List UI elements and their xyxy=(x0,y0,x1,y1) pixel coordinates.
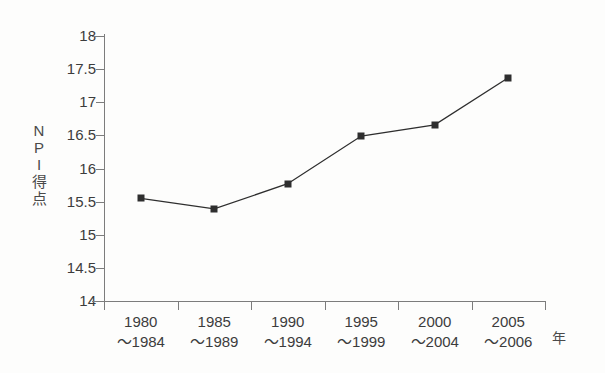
y-axis-tick-mark xyxy=(96,135,104,136)
data-point-marker xyxy=(358,133,365,140)
data-point-marker xyxy=(284,180,291,187)
x-axis-tick-label: 2005～2006 xyxy=(462,312,554,352)
y-axis-tick-label: 17 xyxy=(52,94,96,109)
x-axis-tick-mark xyxy=(104,301,105,310)
y-axis-title-char: P xyxy=(26,139,52,156)
y-axis-tick-label: 14.5 xyxy=(52,260,96,275)
y-axis-tick-mark xyxy=(96,202,104,203)
y-axis-tick-label: 14 xyxy=(52,293,96,308)
x-axis-tick-mark xyxy=(398,301,399,310)
y-axis-tick-label: 15.5 xyxy=(52,194,96,209)
y-axis-tick-mark xyxy=(92,36,104,37)
line-chart: N P I 得 点 1414.51515.51616.51717.518 198… xyxy=(0,0,605,373)
y-axis-tick-label: 18 xyxy=(52,28,96,43)
y-axis-tick-mark xyxy=(96,69,104,70)
x-axis-tick-mark xyxy=(472,301,473,310)
y-axis-tick-labels: 1414.51515.51616.51717.518 xyxy=(52,0,96,373)
y-axis-title: N P I 得 点 xyxy=(26,122,52,207)
data-point-marker xyxy=(211,205,218,212)
x-axis-tick-mark xyxy=(325,301,326,310)
x-axis-tick-label-line1: 2005 xyxy=(492,313,525,330)
x-axis-tick-label-line1: 1980 xyxy=(124,313,157,330)
data-point-marker xyxy=(505,74,512,81)
x-axis-tick-mark xyxy=(545,301,546,310)
y-axis-title-char: 点 xyxy=(26,190,52,207)
y-axis-tick-mark xyxy=(96,102,104,103)
y-axis-tick-mark xyxy=(96,169,104,170)
x-axis-tick-mark xyxy=(251,301,252,310)
data-point-marker xyxy=(431,121,438,128)
x-axis-line xyxy=(96,301,546,302)
y-axis-tick-label: 15 xyxy=(52,227,96,242)
y-axis-title-char: 得 xyxy=(26,173,52,190)
y-axis-tick-label: 16.5 xyxy=(52,127,96,142)
x-axis-tick-mark xyxy=(178,301,179,310)
y-axis-tick-mark xyxy=(96,235,104,236)
y-axis-tick-label: 16 xyxy=(52,161,96,176)
data-point-marker xyxy=(137,195,144,202)
x-axis-tick-label-line1: 1985 xyxy=(198,313,231,330)
y-axis-tick-label: 17.5 xyxy=(52,61,96,76)
x-axis-tick-label-line1: 2000 xyxy=(418,313,451,330)
y-axis-title-char: I xyxy=(26,156,52,173)
x-axis-tick-label-line1: 1990 xyxy=(271,313,304,330)
y-axis-tick-mark xyxy=(92,301,104,302)
x-axis-tick-label-line1: 1995 xyxy=(345,313,378,330)
x-axis-tick-label-line2: ～2006 xyxy=(462,332,554,352)
y-axis-tick-mark xyxy=(96,268,104,269)
y-axis-title-char: N xyxy=(26,122,52,139)
y-axis-line xyxy=(104,34,105,303)
x-axis-unit-label: 年 xyxy=(552,328,566,348)
